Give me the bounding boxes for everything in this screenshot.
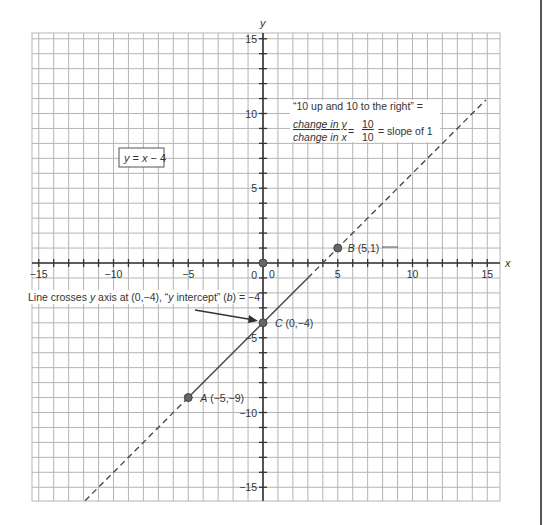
point-c: [259, 319, 267, 327]
equation-label: y = x − 4: [123, 152, 166, 164]
y-tick-label: −10: [239, 407, 257, 419]
slope-numerator: change in y: [293, 118, 347, 130]
intercept-arrowhead-icon: [248, 315, 258, 323]
point-a: [184, 394, 192, 402]
fraction-numerator: 10: [362, 118, 374, 130]
point-label-a: A (−5,−9): [199, 392, 244, 404]
x-tick-label: −10: [105, 268, 123, 280]
coordinate-plane-figure: xy −15−10−5051015151050−5−10−15 y = x − …: [0, 0, 545, 525]
slope-note-line1: “10 up and 10 to the right” =: [293, 100, 423, 112]
y-tick-label: 0: [251, 269, 257, 281]
y-tick-label: 15: [245, 33, 257, 45]
point-label-b: B (5,1): [348, 242, 380, 254]
x-tick-label: 5: [335, 268, 341, 280]
x-axis-label: x: [504, 257, 511, 269]
slope-equals: =: [348, 125, 354, 137]
y-axis-label: y: [259, 17, 267, 29]
point-origin: [259, 259, 267, 267]
page-border: [540, 0, 542, 525]
dashed-line-lower: [85, 398, 188, 501]
y-tick-label: −15: [239, 481, 257, 493]
slope-result: = slope of 1: [378, 125, 433, 137]
intercept-arrow-shaft: [195, 310, 254, 320]
slope-denominator: change in x: [293, 131, 347, 143]
intercept-note: Line crosses y axis at (0,−4), “y interc…: [28, 291, 260, 303]
x-tick-label: 15: [481, 268, 493, 280]
x-tick-label: 0: [269, 268, 275, 280]
x-tick-label: −15: [30, 268, 48, 280]
point-label-c: C (0,−4): [275, 317, 313, 329]
fraction-denominator: 10: [362, 131, 374, 143]
y-tick-label: −5: [245, 332, 257, 344]
x-tick-label: 10: [407, 268, 419, 280]
point-b: [334, 244, 342, 252]
x-tick-label: −5: [182, 268, 194, 280]
y-tick-label: 5: [251, 182, 257, 194]
axes: xy: [32, 17, 511, 501]
graph-svg: xy −15−10−5051015151050−5−10−15 y = x − …: [0, 0, 545, 525]
y-tick-label: 10: [245, 108, 257, 120]
